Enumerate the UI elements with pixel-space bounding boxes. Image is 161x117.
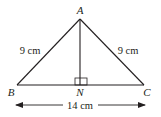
vertex-label-n: N [75,86,84,98]
vertex-label-b: B [8,86,15,98]
vertex-label-c: C [143,86,151,98]
side-label-bc: 14 cm [67,100,93,111]
side-label-ab: 9 cm [20,45,41,56]
right-angle-marker [75,78,87,85]
triangle-diagram: A B N C 9 cm 9 cm 14 cm [0,0,161,117]
side-label-ac: 9 cm [118,45,139,56]
vertex-label-a: A [76,4,84,16]
